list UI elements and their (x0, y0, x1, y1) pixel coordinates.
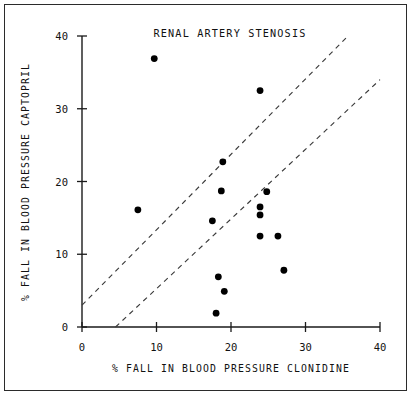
data-point (215, 273, 222, 280)
x-axis-label: % FALL IN BLOOD PRESSURE CLONIDINE (112, 363, 350, 374)
data-point (257, 204, 264, 211)
data-point (218, 188, 225, 195)
upper-dashed-line (82, 36, 348, 305)
data-point (221, 288, 228, 295)
data-point (209, 217, 216, 224)
y-tick-label-10: 10 (55, 248, 68, 260)
lower-dashed-line (116, 80, 380, 327)
chart-figure: RENAL ARTERY STENOSIS 010203040 01020304… (0, 0, 412, 396)
data-point (280, 267, 287, 274)
y-tick-label-20: 20 (55, 176, 68, 188)
data-points (134, 55, 287, 316)
y-axis-label: % FALL IN BLOOD PRESSURE CAPTOPRIL (20, 63, 31, 301)
data-point (263, 188, 270, 195)
y-tick-label-0: 0 (62, 321, 68, 333)
x-tick-label-10: 10 (150, 341, 163, 353)
data-point (257, 87, 264, 94)
y-tick-label-40: 40 (55, 30, 68, 42)
reference-lines (82, 36, 380, 327)
data-point (257, 212, 264, 219)
scatter-plot: RENAL ARTERY STENOSIS 010203040 01020304… (0, 0, 412, 396)
x-tick-label-0: 0 (79, 341, 85, 353)
data-point (213, 310, 220, 317)
x-tick-label-20: 20 (225, 341, 238, 353)
data-point (134, 206, 141, 213)
x-tick-label-40: 40 (374, 341, 387, 353)
x-tick-label-30: 30 (299, 341, 312, 353)
data-point (257, 233, 264, 240)
data-point (219, 158, 226, 165)
data-point (151, 55, 158, 62)
chart-title: RENAL ARTERY STENOSIS (154, 28, 307, 39)
y-tick-label-30: 30 (55, 103, 68, 115)
data-point (275, 233, 282, 240)
